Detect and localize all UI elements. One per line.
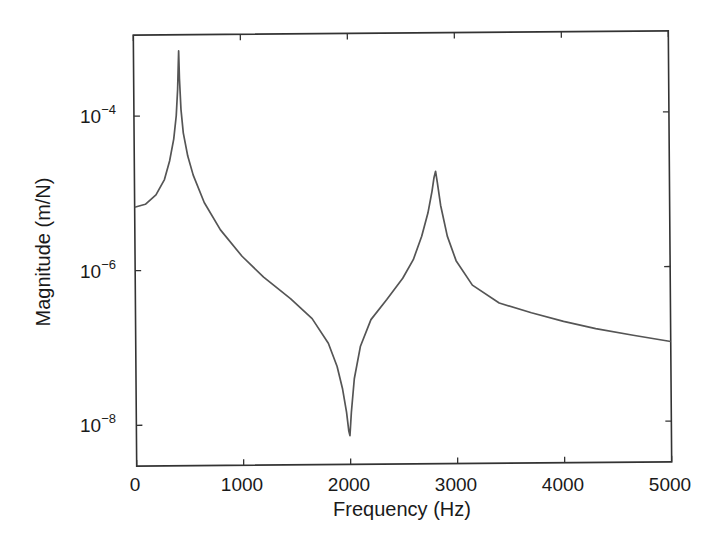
x-tick-label: 0	[130, 474, 141, 495]
y-tick-label: 10−8	[80, 411, 116, 436]
x-axis-label: Frequency (Hz)	[333, 498, 471, 520]
y-tick-label: 10−6	[80, 257, 116, 282]
plot-area	[133, 31, 671, 466]
frf-magnitude-line	[133, 47, 671, 437]
x-tick-label: 1000	[221, 474, 263, 495]
y-axis-tick-labels: 10−410−610−8	[80, 102, 116, 436]
y-axis-label: Magnitude (m/N)	[32, 178, 54, 327]
x-tick-label: 5000	[649, 474, 691, 495]
plot-frame	[133, 31, 671, 466]
x-tick-label: 2000	[328, 474, 370, 495]
x-tick-label: 3000	[435, 474, 477, 495]
x-tick-label: 4000	[542, 474, 584, 495]
frf-magnitude-chart: 010002000300040005000 10−410−610−8 Frequ…	[0, 0, 719, 548]
x-axis-ticks	[133, 31, 671, 466]
y-tick-label: 10−4	[80, 102, 116, 127]
y-axis-ticks	[134, 112, 671, 425]
x-axis-tick-labels: 010002000300040005000	[130, 474, 691, 495]
